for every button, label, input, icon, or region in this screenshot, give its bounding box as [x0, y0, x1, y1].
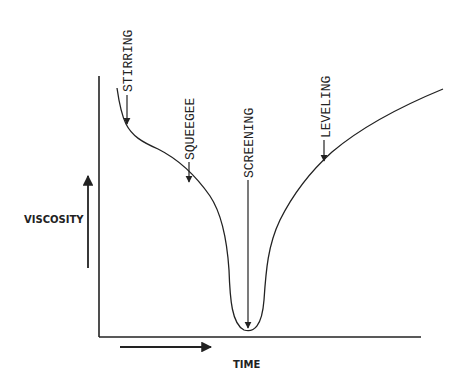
stirring-label: STIRRING [121, 30, 136, 92]
viscosity-curve [117, 88, 443, 331]
viscosity-time-diagram: VISCOSITY TIME STIRRING SQUEEGEE SCREENI… [0, 0, 466, 380]
leveling-label: LEVELING [319, 76, 334, 138]
x-axis-label: TIME [233, 359, 260, 370]
screening-label: SCREENING [242, 108, 257, 178]
y-axis-label: VISCOSITY [24, 214, 84, 225]
squeegee-label: SQUEEGEE [183, 97, 198, 160]
